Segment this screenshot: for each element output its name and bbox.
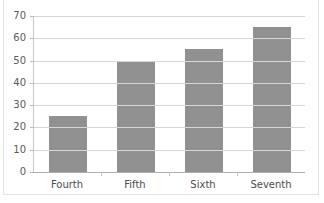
y-tick-mark-50 [30, 61, 34, 62]
gridline-20 [34, 127, 305, 128]
y-axis-label-50: 50 [0, 56, 26, 66]
gridline-50 [34, 61, 305, 62]
chart-screenshot: 010203040506070FourthFifthSixthSeventh [0, 0, 324, 203]
y-tick-mark-70 [30, 16, 34, 17]
y-axis-label-10: 10 [0, 145, 26, 155]
chart-title [70, 0, 190, 2]
y-axis-label-0: 0 [0, 167, 26, 177]
y-axis-label-70: 70 [0, 11, 26, 21]
gridline-40 [34, 83, 305, 84]
y-axis-label-60: 60 [0, 33, 26, 43]
x-axis-label-fifth: Fifth [101, 179, 169, 191]
y-axis-label-20: 20 [0, 122, 26, 132]
y-tick-mark-10 [30, 150, 34, 151]
y-axis-label-40: 40 [0, 78, 26, 88]
y-tick-mark-20 [30, 127, 34, 128]
gridline-70 [34, 16, 305, 17]
y-tick-mark-60 [30, 38, 34, 39]
plot-area [33, 16, 305, 172]
x-axis-label-seventh: Seventh [237, 179, 305, 191]
y-tick-mark-30 [30, 105, 34, 106]
x-axis-label-fourth: Fourth [33, 179, 101, 191]
bar-sixth [185, 49, 223, 172]
y-axis-label-30: 30 [0, 100, 26, 110]
gridline-10 [34, 150, 305, 151]
bar-fourth [49, 116, 87, 172]
y-tick-mark-40 [30, 83, 34, 84]
bar-fifth [117, 61, 155, 172]
bars-layer [34, 16, 305, 172]
gridline-30 [34, 105, 305, 106]
gridline-60 [34, 38, 305, 39]
x-tick-mark-2 [237, 172, 238, 176]
x-tick-mark-0 [101, 172, 102, 176]
x-axis-label-sixth: Sixth [169, 179, 237, 191]
x-tick-mark-1 [169, 172, 170, 176]
